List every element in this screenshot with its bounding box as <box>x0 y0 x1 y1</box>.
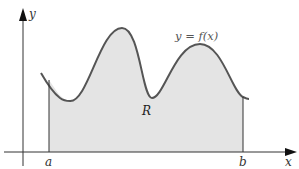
bound-b-label: b <box>239 155 247 169</box>
x-axis-label: x <box>285 155 292 169</box>
y-axis-label: y <box>28 7 36 21</box>
y-axis-arrow-icon <box>19 8 27 21</box>
bound-a-label: a <box>45 155 52 169</box>
area-under-curve-diagram: y x a b y = f(x) R <box>0 0 299 169</box>
curve-label: y = f(x) <box>174 29 218 43</box>
region-label: R <box>141 104 151 118</box>
